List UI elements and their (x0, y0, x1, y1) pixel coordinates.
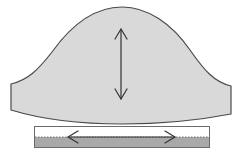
diagram-canvas (0, 0, 238, 154)
diagram-svg (0, 0, 238, 154)
